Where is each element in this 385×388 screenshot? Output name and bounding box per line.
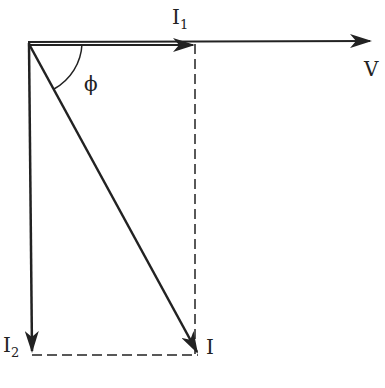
label-i2: I2 bbox=[3, 333, 19, 360]
label-i: I bbox=[206, 335, 214, 359]
vector-v bbox=[28, 41, 370, 42]
vector-i2 bbox=[29, 43, 32, 351]
label-i1: I1 bbox=[172, 5, 188, 32]
label-phi: ϕ bbox=[84, 72, 98, 96]
phi-angle-arc bbox=[54, 44, 82, 89]
label-v: V bbox=[363, 57, 379, 81]
phasor-diagram: I1 V ϕ I2 I bbox=[0, 0, 385, 388]
vector-i bbox=[29, 44, 197, 352]
